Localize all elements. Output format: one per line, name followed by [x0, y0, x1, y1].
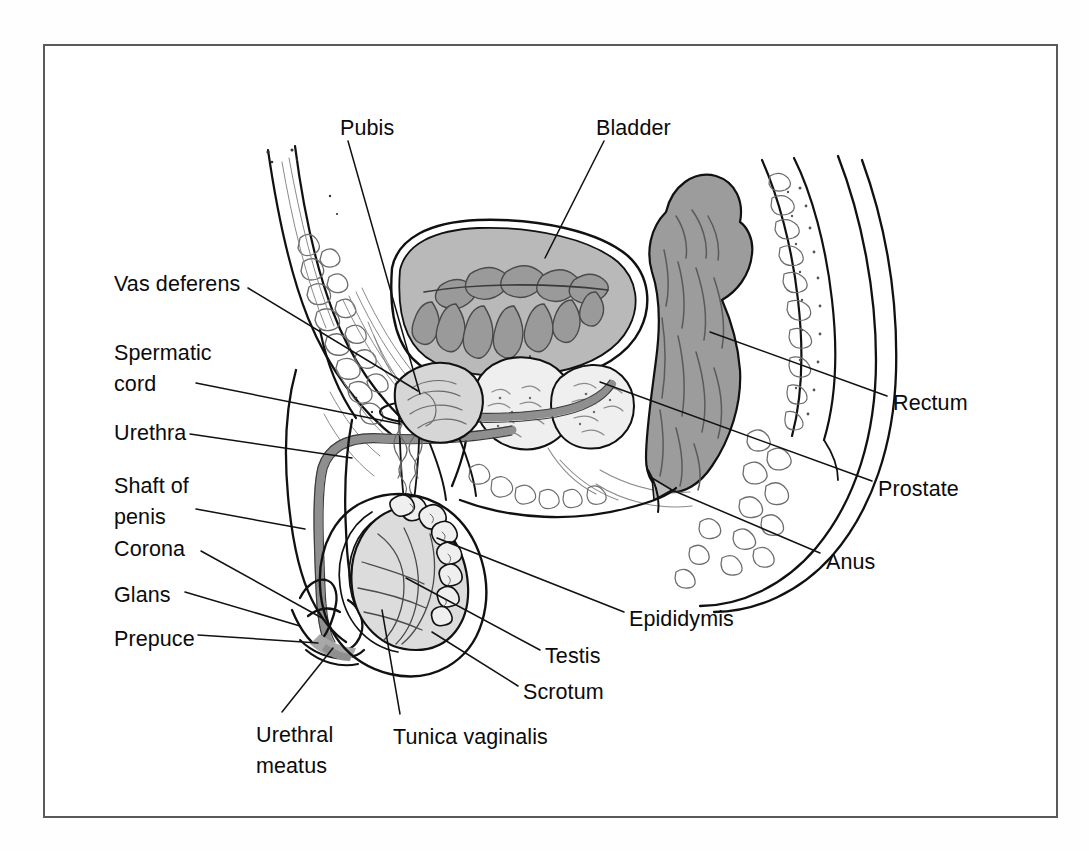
label-pubis: Pubis	[340, 113, 394, 144]
perineal-detail	[469, 464, 606, 508]
label-urethral-meatus: Urethral meatus	[256, 720, 333, 781]
label-shaft-of-penis: Shaft of penis	[114, 471, 189, 532]
pubis-bone	[395, 363, 483, 443]
pubic-ramus	[430, 440, 476, 500]
rectum-organ	[646, 175, 752, 493]
leader-line-anus	[672, 490, 820, 553]
label-scrotum: Scrotum	[523, 677, 604, 708]
label-bladder: Bladder	[596, 113, 671, 144]
label-urethra: Urethra	[114, 418, 186, 449]
label-tunica-vaginalis: Tunica vaginalis	[393, 722, 548, 753]
label-testis: Testis	[545, 641, 601, 672]
label-epididymis: Epididymis	[629, 604, 734, 635]
label-prepuce: Prepuce	[114, 624, 195, 655]
label-spermatic-cord: Spermatic cord	[114, 338, 212, 399]
leader-line-urethra	[190, 434, 352, 458]
label-rectum: Rectum	[893, 388, 968, 419]
label-corona: Corona	[114, 534, 185, 565]
sacrum-bone	[762, 158, 838, 480]
leader-line-corona	[201, 551, 322, 618]
label-glans: Glans	[114, 580, 171, 611]
label-prostate: Prostate	[878, 474, 959, 505]
bone-trabeculae	[769, 173, 812, 430]
label-vas-deferens: Vas deferens	[114, 269, 240, 300]
figure-root: PubisBladderVas deferensSpermatic cordUr…	[0, 0, 1089, 851]
tissue-speckles	[266, 149, 373, 414]
leader-line-urethral-meatus	[282, 648, 333, 712]
label-anus: Anus	[826, 547, 875, 578]
